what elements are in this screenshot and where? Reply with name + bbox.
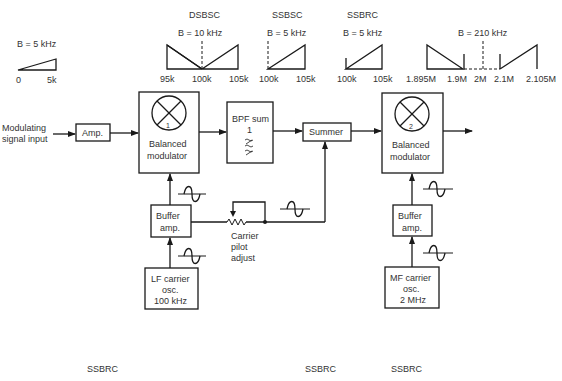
lf-carrier-oscillator: LF carrier osc. 100 kHz: [145, 268, 198, 309]
mfosc-label-line2: osc.: [403, 284, 420, 294]
footer-label-ssbrc-1: SSBRC: [87, 364, 119, 374]
sine-wave-icon: [178, 249, 206, 264]
output-tick-19M: 1.9M: [447, 74, 467, 84]
output-tick-2M: 2M: [474, 74, 487, 84]
output-bandwidth-label: B = 210 kHz: [458, 28, 508, 38]
spectrum-output: B = 210 kHz 1.895M 1.9M 2M 2.1M 2.105M: [406, 28, 556, 84]
lfosc-label-line2: osc.: [162, 285, 179, 295]
baseband-tick-5k: 5k: [47, 75, 57, 85]
bm2-label-line1: Balanced: [392, 140, 430, 150]
pilot-label-line3: adjust: [231, 253, 256, 263]
buffer1-label-line1: Buffer: [156, 211, 180, 221]
spectrum-dsbsc: DSBSC B = 10 kHz 95k 100k 105k: [160, 10, 249, 84]
bm2-number: 2: [409, 123, 413, 130]
pilot-label-line1: Carrier: [231, 231, 259, 241]
buffer-amp-1: Buffer amp.: [151, 205, 191, 237]
amp-label: Amp.: [82, 128, 103, 138]
buffer2-label-line1: Buffer: [398, 211, 422, 221]
pilot-label-line2: pilot: [231, 242, 248, 252]
footer-label-ssbrc-3: SSBRC: [391, 364, 423, 374]
sine-wave-icon: [423, 246, 453, 261]
ssbsc-title: SSBSC: [272, 10, 303, 20]
buffer-amp-2: Buffer amp.: [393, 205, 432, 236]
output-tick-1895M: 1.895M: [406, 74, 436, 84]
ssbsc-tick-105k: 105k: [296, 74, 316, 84]
footer-label-ssbrc-2: SSBRC: [305, 364, 337, 374]
bpf-label-line1: BPF sum: [232, 114, 269, 124]
dsbsc-tick-95k: 95k: [160, 74, 175, 84]
bm1-label-line2: modulator: [147, 151, 187, 161]
summer-block: Summer: [303, 123, 351, 141]
bpf-label-line2: 1: [247, 125, 252, 135]
input-label-line1: Modulating: [2, 123, 46, 133]
output-tick-21M: 2.1M: [494, 74, 514, 84]
dsbsc-bandwidth-label: B = 10 kHz: [178, 28, 223, 38]
buffer1-label-line2: amp.: [160, 223, 180, 233]
input-label-line2: signal input: [2, 134, 48, 144]
ssbsc-bandwidth-label: B = 5 kHz: [267, 28, 307, 38]
buffer2-label-line2: amp.: [402, 223, 422, 233]
mfosc-label-line3: 2 MHz: [400, 295, 427, 305]
summer-label: Summer: [309, 127, 343, 137]
ssb-transmitter-diagram: B = 5 kHz 0 5k DSBSC B = 10 kHz 95k 100k…: [0, 0, 562, 381]
balanced-modulator-2: 2 Balanced modulator: [382, 93, 443, 173]
output-tick-2105M: 2.105M: [526, 74, 556, 84]
amp-block: Amp.: [76, 124, 110, 141]
lfosc-label-line3: 100 kHz: [154, 296, 188, 306]
balanced-modulator-1: 1 Balanced modulator: [139, 92, 199, 173]
bpf-block: BPF sum 1: [227, 102, 273, 163]
dsbsc-title: DSBSC: [189, 10, 221, 20]
spectrum-baseband: B = 5 kHz 0 5k: [16, 39, 57, 85]
potentiometer-icon: [227, 219, 246, 225]
bm1-number: 1: [166, 122, 170, 129]
spectrum-ssbrc: SSBRC B = 5 kHz 100k 105k: [337, 10, 393, 84]
baseband-tick-0: 0: [16, 75, 21, 85]
dsbsc-tick-105k: 105k: [229, 74, 249, 84]
ssbrc-tick-100k: 100k: [337, 74, 357, 84]
mfosc-label-line1: MF carrier: [390, 273, 431, 283]
baseband-bandwidth-label: B = 5 kHz: [17, 39, 57, 49]
junction-dot: [263, 220, 267, 224]
ssbrc-title: SSBRC: [347, 10, 379, 20]
lfosc-label-line1: LF carrier: [151, 274, 190, 284]
ssbrc-bandwidth-label: B = 5 kHz: [343, 28, 383, 38]
dsbsc-tick-100k: 100k: [192, 74, 212, 84]
bm2-label-line2: modulator: [390, 152, 430, 162]
sine-wave-icon: [280, 202, 310, 217]
sine-wave-icon: [178, 187, 206, 202]
spectrum-ssbsc: SSBSC B = 5 kHz 100k 105k: [259, 10, 316, 84]
ssbrc-tick-105k: 105k: [373, 74, 393, 84]
bm1-label-line1: Balanced: [149, 139, 187, 149]
sine-wave-icon: [423, 182, 453, 197]
mf-carrier-oscillator: MF carrier osc. 2 MHz: [385, 267, 439, 308]
ssbsc-tick-100k: 100k: [259, 74, 279, 84]
